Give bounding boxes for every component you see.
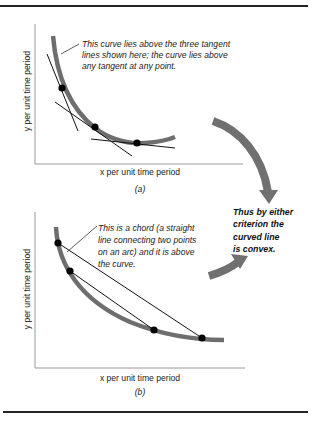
annotation-line: lines shown here; the curve lies above xyxy=(82,50,228,62)
tangent-point-3 xyxy=(133,139,140,146)
panel-b-annotation-pointer xyxy=(67,226,97,252)
chord-point-1 xyxy=(54,239,61,246)
conclusion-line: Thus by either xyxy=(233,206,293,219)
conclusion-line: is convex. xyxy=(233,243,276,256)
annotation-line: the curve. xyxy=(98,259,136,271)
panel-a-tangent-points xyxy=(58,84,140,146)
annotation-line: This curve lies above the three tangent xyxy=(82,39,230,51)
annotation-line: any tangent at any point. xyxy=(82,61,176,73)
panel-a-label: (a) xyxy=(120,184,160,194)
chord-2 xyxy=(70,271,154,330)
annotation-line: This is a chord (a straight xyxy=(98,223,194,235)
panel-b-label: (b) xyxy=(120,387,160,397)
tangent-point-1 xyxy=(58,84,65,91)
panel-a-y-axis-label: y per unit time period xyxy=(22,31,32,151)
chord-point-4 xyxy=(198,334,205,341)
annotation-line: line connecting two points xyxy=(98,235,196,247)
up-curved-arrow-icon xyxy=(209,254,248,276)
conclusion-line: curved line xyxy=(233,231,279,244)
tangent-point-2 xyxy=(91,123,98,130)
chord-point-3 xyxy=(150,326,157,333)
tangent-line-1 xyxy=(47,54,78,131)
annotation-line: on an arc) and it is above xyxy=(98,247,195,259)
down-curved-arrow-icon xyxy=(213,121,278,204)
chord-point-2 xyxy=(66,267,73,274)
panel-a-x-axis-label: x per unit time period xyxy=(60,167,220,177)
panel-b-y-axis-label: y per unit time period xyxy=(22,229,32,349)
panel-b-x-axis-label: x per unit time period xyxy=(60,373,220,383)
panel-a-annotation-pointer xyxy=(61,44,79,54)
conclusion-line: criterion the xyxy=(233,218,284,231)
